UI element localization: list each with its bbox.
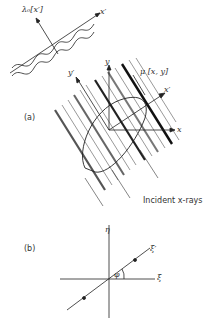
- x-prime-axis-top: [10, 13, 100, 73]
- wave-curve-2: [12, 32, 94, 76]
- mu-label: μ [x, y]: [140, 68, 168, 76]
- x-prime-label-top: x′: [100, 8, 106, 16]
- phi-label: φ: [114, 271, 120, 279]
- wave-label: λ₀[x′]: [22, 6, 43, 14]
- x-label: x: [177, 126, 182, 134]
- y-prime-label: y′: [68, 69, 74, 77]
- xi-label: ξ: [157, 274, 161, 282]
- y-label: y: [105, 58, 110, 66]
- x-prime-label: x′: [164, 86, 170, 94]
- eta-label: η: [105, 226, 110, 234]
- wave-diagram: [10, 13, 100, 76]
- incident-rays-label: Incident x-rays: [143, 197, 203, 205]
- panel-b-axes: [60, 225, 155, 318]
- panel-a-label: (a): [24, 114, 35, 122]
- xi-prime-label: ξ′: [150, 245, 156, 253]
- diagram-canvas: [0, 0, 207, 323]
- normal-line: [37, 20, 58, 54]
- panel-b-label: (b): [24, 245, 35, 253]
- incident-rays: [55, 58, 179, 206]
